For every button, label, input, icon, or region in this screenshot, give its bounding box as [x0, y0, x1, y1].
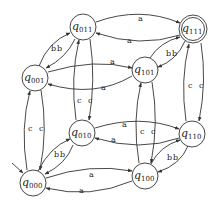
- edge-label-c: c: [199, 81, 204, 90]
- edge-q100-q101: [136, 83, 141, 163]
- edge-label-c: c: [28, 124, 33, 133]
- edge-label-b: b: [54, 150, 59, 159]
- automaton-diagram: a a a a a a a a b b b b b b: [0, 0, 219, 201]
- state-q111-accepting[interactable]: q111: [179, 15, 207, 43]
- edge-q001-q101: [48, 64, 132, 72]
- edge-q010-q011: [74, 40, 79, 120]
- edge-label-b: b: [172, 49, 177, 58]
- edge-label-c: c: [188, 81, 193, 90]
- state-q010[interactable]: q010: [69, 120, 95, 146]
- state-q011[interactable]: q011: [70, 14, 96, 40]
- edge-q101-q001: [48, 76, 132, 89]
- edge-q011-q010: [89, 39, 93, 120]
- edge-label-a: a: [79, 186, 84, 195]
- edge-label-b: b: [166, 49, 171, 58]
- state-q101[interactable]: q101: [132, 57, 158, 83]
- edge-label-b: b: [60, 150, 65, 159]
- a-transitions: a a a a a a a a: [46, 14, 180, 195]
- edge-label-a: a: [101, 83, 106, 92]
- edge-label-b: b: [167, 153, 172, 162]
- edge-label-b: b: [57, 44, 62, 53]
- b-transitions: b b b b b b b b: [38, 33, 188, 174]
- edge-label-a: a: [127, 36, 132, 45]
- edge-label-c: c: [77, 96, 82, 105]
- state-q000[interactable]: q000: [20, 170, 46, 196]
- edge-label-a: a: [138, 14, 143, 23]
- edge-label-a: a: [89, 170, 94, 179]
- state-q110[interactable]: q110: [179, 121, 205, 147]
- edge-label-a: a: [110, 57, 115, 66]
- initial-state-arrow: [12, 163, 23, 173]
- edge-label-c: c: [39, 124, 44, 133]
- edge-label-c: c: [151, 127, 156, 136]
- edge-label-a: a: [111, 135, 116, 144]
- edge-q010-q110: [95, 121, 179, 129]
- edge-label-a: a: [122, 120, 127, 129]
- edge-label-b: b: [173, 153, 178, 162]
- state-q001[interactable]: q001: [22, 65, 48, 91]
- edge-label-c: c: [88, 96, 93, 105]
- edge-q100-q000: [46, 181, 132, 192]
- edge-label-b: b: [51, 44, 56, 53]
- state-q100[interactable]: q100: [132, 163, 158, 189]
- edge-label-c: c: [140, 127, 145, 136]
- edge-q111-q011: [96, 33, 180, 41]
